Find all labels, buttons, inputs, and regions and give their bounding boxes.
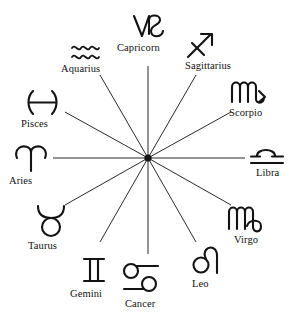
spoke-virgo	[148, 158, 231, 205]
sign-label-cancer: Cancer	[125, 298, 155, 309]
cancer-glyph	[122, 262, 164, 294]
spoke-aquarius	[100, 75, 148, 158]
spoke-gemini	[100, 158, 148, 242]
libra-glyph	[249, 145, 291, 167]
virgo-glyph	[227, 203, 269, 235]
sagittarius-glyph	[186, 30, 220, 60]
aquarius-glyph	[70, 41, 108, 63]
spoke-scorpio	[148, 112, 231, 158]
sign-label-scorpio: Scorpio	[229, 107, 262, 118]
sign-label-capricorn: Capricorn	[117, 42, 160, 53]
spoke-pisces	[65, 112, 148, 158]
capricorn-glyph	[130, 12, 170, 42]
gemini-glyph	[80, 256, 112, 286]
sign-label-libra: Libra	[256, 167, 279, 178]
spoke-sagittarius	[148, 75, 196, 158]
sign-label-aries: Aries	[9, 175, 32, 186]
pisces-glyph	[26, 89, 62, 117]
zodiac-wheel-figure: Capricorn Sagittarius Scorpio Libra Virg…	[0, 0, 297, 317]
sign-label-gemini: Gemini	[70, 288, 102, 299]
sign-label-aquarius: Aquarius	[61, 63, 100, 74]
taurus-glyph	[35, 203, 71, 237]
sign-label-sagittarius: Sagittarius	[185, 60, 231, 71]
sign-label-pisces: Pisces	[21, 118, 48, 129]
wheel-center-hub	[144, 154, 151, 161]
sign-label-virgo: Virgo	[234, 234, 258, 245]
aries-glyph	[13, 143, 51, 173]
spoke-taurus	[65, 158, 148, 205]
scorpio-glyph	[230, 78, 272, 108]
leo-glyph	[192, 245, 226, 277]
spoke-leo	[148, 158, 196, 242]
sign-label-taurus: Taurus	[28, 240, 57, 251]
sign-label-leo: Leo	[192, 278, 209, 289]
